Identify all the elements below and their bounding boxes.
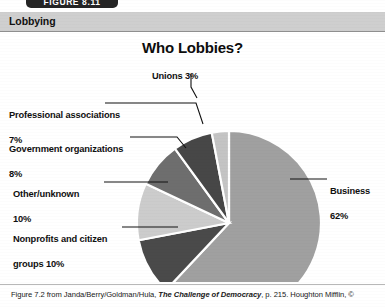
pie-label-business-name: Business: [330, 186, 370, 196]
caption-pre: Figure 7.2 from Janda/Berry/Goldman/Hula…: [11, 290, 158, 299]
caption-divider: [0, 284, 385, 285]
pie-label-professional-associations-name: Professional associations: [9, 110, 120, 120]
pie-label-nonprofits: Nonprofits and citizen groups 10%: [13, 220, 107, 270]
figure-header-title: Lobbying: [9, 15, 55, 27]
caption-book-title: The Challenge of Democracy: [158, 290, 261, 299]
pie-label-other-unknown-name: Other/unknown: [13, 189, 79, 199]
chart-area: Who Lobbies? Unions 3% Professional asso…: [0, 32, 385, 282]
pie-label-other-unknown: Other/unknown 10%: [13, 175, 79, 225]
pie-label-business-value: 62%: [330, 211, 348, 221]
figure-screenshot: FIGURE 8.11 Lobbying Who Lobbies? Unions…: [0, 0, 385, 307]
pie-label-nonprofits-name: Nonprofits and citizen: [13, 234, 107, 244]
caption-post: , p. 215. Houghton Mifflin, ©: [261, 290, 354, 299]
figure-header-band: Lobbying: [0, 12, 385, 32]
pie-label-nonprofits-value: groups 10%: [13, 259, 64, 269]
pie-slice-group: [137, 131, 321, 282]
pie-label-government-organizations: Government organizations 8%: [9, 130, 123, 180]
pie-label-unions: Unions 3%: [152, 70, 198, 83]
pie-label-government-organizations-name: Government organizations: [9, 144, 123, 154]
figure-caption: Figure 7.2 from Janda/Berry/Goldman/Hula…: [11, 290, 379, 300]
figure-number-tab: FIGURE 8.11: [26, 0, 118, 8]
pie-label-business: Business 62%: [330, 172, 370, 222]
